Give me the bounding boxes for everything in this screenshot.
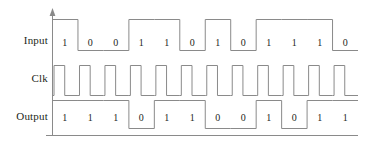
input-bit-6: 1	[205, 36, 231, 50]
output-bit-1: 1	[78, 111, 104, 125]
output-bit-11: 1	[333, 111, 359, 125]
timing-diagram-figure: Input Clk Output 100110101110 1110110010…	[0, 0, 365, 146]
input-bit-7: 0	[231, 36, 257, 50]
output-bit-7: 0	[231, 111, 257, 125]
output-bit-4: 1	[154, 111, 180, 125]
output-bit-10: 1	[307, 111, 333, 125]
input-bit-5: 0	[180, 36, 206, 50]
input-bit-1: 0	[78, 36, 104, 50]
output-bit-0: 1	[52, 111, 78, 125]
input-bit-0: 1	[52, 36, 78, 50]
output-bit-5: 1	[180, 111, 206, 125]
output-bit-9: 0	[282, 111, 308, 125]
input-bit-2: 0	[103, 36, 129, 50]
up-arrow-icon	[50, 8, 56, 16]
bit-row-input: 100110101110	[52, 36, 358, 50]
waveform-clk	[53, 66, 359, 96]
bit-row-output: 111011001011	[52, 111, 358, 125]
output-bit-8: 1	[256, 111, 282, 125]
input-bit-10: 1	[307, 36, 333, 50]
input-bit-4: 1	[154, 36, 180, 50]
output-bit-3: 0	[129, 111, 155, 125]
input-bit-3: 1	[129, 36, 155, 50]
output-bit-6: 0	[205, 111, 231, 125]
input-bit-8: 1	[256, 36, 282, 50]
output-bit-2: 1	[103, 111, 129, 125]
input-bit-11: 0	[333, 36, 359, 50]
input-bit-9: 1	[282, 36, 308, 50]
